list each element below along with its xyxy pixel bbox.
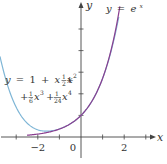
taylor-l2-exp4: 4 — [68, 89, 72, 96]
svg-text:y = e x: y = e x — [105, 2, 144, 14]
taylor-l1-plus1: + — [41, 74, 49, 85]
taylor-l2-exp3: 3 — [40, 89, 44, 96]
x-tick-labels: −202 — [30, 142, 127, 153]
y-axis-arrow — [79, 2, 84, 8]
taylor-l1-eq: = — [16, 74, 24, 85]
x-axis-arrow — [150, 135, 156, 140]
x-axis-label: x — [157, 131, 164, 144]
taylor-l1-exp2: 2 — [73, 72, 77, 79]
x-tick-label: −2 — [30, 142, 45, 153]
taylor-l1-one: 1 — [29, 74, 35, 85]
exp-label-x: x — [140, 2, 144, 9]
taylor-l1-x: x — [55, 74, 61, 85]
exp-label-y: y — [105, 3, 112, 14]
exp-label-e: e — [130, 3, 136, 14]
taylor-l2-frac2-num: 1 — [55, 90, 59, 97]
y-axis-label: y — [85, 0, 93, 12]
taylor-l1-y: y — [4, 74, 11, 85]
exp-label-eq: = — [117, 3, 125, 14]
taylor-l1-frac-num: 1 — [62, 73, 66, 80]
x-tick-label: 0 — [70, 142, 76, 153]
exp-curve-label: y = e x — [105, 2, 144, 14]
series-group — [0, 6, 120, 135]
taylor-l2-frac1-den: 6 — [29, 97, 33, 104]
taylor-curve-label: y = 1 + x + 1 2 x 2 + 1 6 x 3 + 1 24 x 4 — [4, 72, 77, 104]
taylor-l1-frac-den: 2 — [62, 80, 66, 87]
taylor-l2-plus1: + — [20, 91, 28, 102]
chart: x y −202 y = e x y = 1 + x + 1 2 x 2 + 1… — [0, 0, 167, 164]
taylor-l2-frac1-num: 1 — [29, 90, 33, 97]
taylor-l2-frac2-den: 24 — [54, 97, 62, 104]
x-tick-label: 2 — [121, 142, 127, 153]
